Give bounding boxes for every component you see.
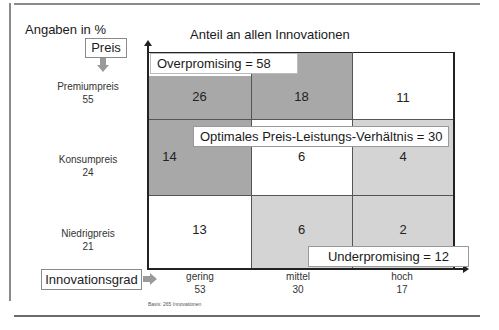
cell-value: 18 xyxy=(294,89,308,119)
y-axis-arrowhead-icon xyxy=(144,40,152,46)
row-label-text: Konsumpreis xyxy=(28,153,148,166)
row-label-text: Premiumpreis xyxy=(28,80,148,93)
col-label-text: gering xyxy=(160,270,240,283)
grid-right xyxy=(453,52,455,268)
cell-value: 6 xyxy=(298,222,305,268)
price-axis-label: Preis xyxy=(85,38,127,58)
cell-value: 11 xyxy=(396,90,410,119)
cell-value: 26 xyxy=(192,89,206,119)
col-label-gering: gering 53 xyxy=(160,270,240,296)
frame-top-line xyxy=(14,3,480,5)
row-label-niedrig: Niedrigpreis 21 xyxy=(28,227,148,253)
cell-value: 4 xyxy=(399,149,406,195)
frame-left-line xyxy=(9,3,11,301)
grid-col-2 xyxy=(352,52,353,268)
underpromising-callout: Underpromising = 12 xyxy=(308,246,469,267)
row-label-konsum: Konsumpreis 24 xyxy=(28,153,148,179)
row-label-text: Niedrigpreis xyxy=(28,227,148,240)
col-label-hoch: hoch 17 xyxy=(362,270,442,296)
col-label-value: 17 xyxy=(362,283,442,296)
cell-premium-gering: 26 xyxy=(148,76,251,119)
row-label-value: 24 xyxy=(28,166,148,179)
chart-title: Anteil an allen Innovationen xyxy=(190,27,350,42)
row-label-value: 21 xyxy=(28,240,148,253)
grid-row-1 xyxy=(148,119,454,120)
cell-premium-hoch: 11 xyxy=(352,52,454,119)
right-arrow-icon xyxy=(143,273,157,285)
overpromising-callout: Overpromising = 58 xyxy=(150,53,298,74)
cell-value: 6 xyxy=(298,149,305,195)
cell-value: 14 xyxy=(162,149,176,195)
optimal-callout: Optimales Preis-Leistungs-Verhältnis = 3… xyxy=(193,126,449,147)
y-axis xyxy=(147,44,149,270)
col-label-mittel: mittel 30 xyxy=(258,270,338,296)
cell-value: 13 xyxy=(192,222,206,268)
row-label-premium: Premiumpreis 55 xyxy=(28,80,148,106)
col-label-value: 30 xyxy=(258,283,338,296)
col-label-value: 53 xyxy=(160,283,240,296)
footnote: Basis: 265 Innovationen xyxy=(148,301,201,307)
grid-col-1 xyxy=(251,52,252,268)
cell-niedrig-gering: 13 xyxy=(148,195,251,268)
row-label-value: 55 xyxy=(28,93,148,106)
innovation-axis-label: Innovationsgrad xyxy=(41,269,142,290)
frame-bottom-line xyxy=(14,315,480,317)
unit-label: Angaben in % xyxy=(25,22,106,37)
col-label-text: hoch xyxy=(362,270,442,283)
col-label-text: mittel xyxy=(258,270,338,283)
down-arrow-icon xyxy=(97,58,109,72)
grid-row-2 xyxy=(148,195,454,196)
